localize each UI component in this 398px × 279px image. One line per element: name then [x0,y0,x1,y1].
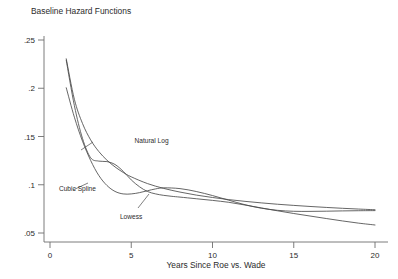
y-tick-label: .05 [24,229,36,238]
x-tick-label: 20 [371,251,380,260]
x-axis-ticks: 05101520 [48,242,380,260]
x-tick-label: 5 [129,251,134,260]
x-tick-label: 0 [48,251,53,260]
x-tick-label: 15 [289,251,298,260]
lowess-leader [138,194,149,208]
annotation-natural-log: Natural Log [135,137,169,145]
y-tick-label: .1 [28,181,35,190]
annotation-leaders [73,142,149,208]
baseline-hazard-chart: Baseline Hazard Functions .05.1.15.2.25 … [0,0,398,279]
series-annotations: Natural LogCubic SplineLowess [59,137,169,220]
curve-natural-log [66,59,375,210]
annotation-lowess: Lowess [120,213,143,220]
y-tick-label: .25 [24,36,36,45]
curve-lowess [66,60,375,225]
y-tick-label: .15 [24,133,36,142]
curve-cubic-spline [66,88,375,212]
x-tick-label: 10 [208,251,217,260]
natural-log-leader [81,142,93,150]
y-axis-ticks: .05.1.15.2.25 [24,36,44,238]
x-axis-title: Years Since Roe vs. Wade [167,260,266,270]
y-tick-label: .2 [28,84,35,93]
chart-title: Baseline Hazard Functions [31,6,131,16]
annotation-cubic-spline: Cubic Spline [59,185,96,193]
chart-figure: Baseline Hazard Functions .05.1.15.2.25 … [0,0,398,279]
series-curves [66,59,375,225]
